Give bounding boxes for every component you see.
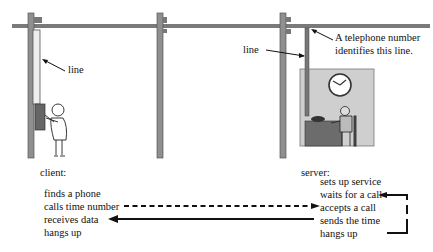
desk-phone-icon <box>311 116 325 122</box>
client-step: finds a phone <box>44 187 119 200</box>
client-steps: finds a phone calls time number receives… <box>44 187 119 239</box>
telephone-note-line2: identifies this line. <box>335 44 413 57</box>
desk-icon <box>305 121 342 146</box>
payphone-icon <box>35 104 45 130</box>
telephone-note-line1: A telephone number <box>335 31 420 44</box>
server-step: waits for a call <box>320 188 382 201</box>
client-step: hangs up <box>44 226 119 239</box>
server-pole <box>280 13 291 158</box>
server-steps: sets up service waits for a call accepts… <box>320 175 382 240</box>
overhead-wire <box>12 24 430 28</box>
loop-back-arrow <box>387 195 407 233</box>
client-step: calls time number <box>44 200 119 213</box>
server-step: sends the time <box>320 214 382 227</box>
server-step: accepts a call <box>320 201 382 214</box>
server-step: sets up service <box>320 175 382 188</box>
server-drop-line <box>305 28 309 116</box>
clock-icon <box>329 74 351 96</box>
middle-pole <box>157 13 167 158</box>
client-pole <box>28 13 45 158</box>
line-label-left: line <box>68 63 84 76</box>
line-label-right: line <box>243 43 259 56</box>
client-step: receives data <box>44 213 119 226</box>
client-person-icon <box>45 104 67 156</box>
server-step: hangs up <box>320 227 382 240</box>
client-heading: client: <box>40 166 66 179</box>
